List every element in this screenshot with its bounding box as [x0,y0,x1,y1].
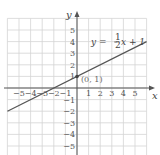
y-tick-label: 5 [70,26,75,35]
y-tick-label: −5 [63,142,75,151]
x-tick-label: 4 [121,89,126,98]
svg-text:y =: y = [90,37,107,47]
y-tick-label: −4 [63,130,75,139]
x-tick-label: 3 [109,89,114,98]
equation-label: y = 1 2 x + 1 [90,32,145,50]
y-tick-label: −1 [63,96,75,105]
x-tick-label: 2 [98,89,103,98]
x-axis-label: x [152,90,158,101]
y-intercept-point [75,75,79,79]
x-tick-label: 5 [132,89,137,98]
y-axis-arrow-icon [75,11,80,17]
svg-text:x + 1: x + 1 [121,37,145,47]
point-label: (0, 1) [81,75,103,84]
svg-text:2: 2 [115,40,121,50]
x-tick-label: −5 [13,89,25,98]
x-tick-label: −4 [25,89,37,98]
y-axis-label: y [65,9,72,20]
x-tick-label: 1 [86,89,91,98]
y-tick-label: 3 [70,49,75,58]
y-tick-label: 4 [70,38,75,47]
coordinate-plane: y x −5−4−3−2−112345 54321−1−2−3−4−5 (0, … [0,0,160,155]
x-tick-labels: −5−4−3−2−112345 [13,89,137,98]
y-tick-label: 2 [70,61,75,70]
y-tick-label: −3 [63,119,75,128]
y-tick-label: −2 [63,107,75,116]
